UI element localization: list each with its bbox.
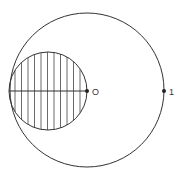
point-o-marker xyxy=(85,89,89,93)
point-one-label: 1 xyxy=(169,87,174,97)
diagram-canvas: O 1 xyxy=(0,0,178,171)
inner-circle-hatching xyxy=(15,40,80,140)
point-o-label: O xyxy=(92,87,99,97)
point-one-marker xyxy=(162,89,166,93)
